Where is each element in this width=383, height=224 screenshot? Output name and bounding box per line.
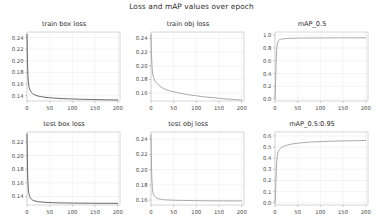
- svg-text:0.3: 0.3: [263, 166, 271, 172]
- svg-text:100: 100: [191, 105, 202, 111]
- plot-area: 0.00.20.40.60.81.0050100150200: [252, 29, 372, 114]
- svg-text:50: 50: [46, 105, 53, 111]
- svg-text:100: 100: [315, 209, 326, 215]
- svg-text:0.22: 0.22: [136, 49, 148, 55]
- figure-canvas: Loss and mAP values over epoch train box…: [0, 0, 383, 224]
- subplot-train-obj-loss: train obj loss0.160.180.200.220.24050100…: [128, 20, 248, 114]
- svg-text:0.2: 0.2: [263, 83, 271, 89]
- svg-text:0.14: 0.14: [12, 193, 24, 199]
- svg-text:0.20: 0.20: [136, 167, 148, 173]
- svg-text:100: 100: [67, 105, 78, 111]
- svg-text:150: 150: [214, 209, 225, 215]
- plot-area: 0.160.180.200.220.24050100150200: [128, 29, 248, 114]
- svg-text:1.0: 1.0: [263, 32, 272, 38]
- subplot-title: train obj loss: [128, 20, 248, 28]
- svg-text:200: 200: [237, 209, 248, 215]
- svg-text:0.24: 0.24: [12, 35, 24, 41]
- svg-text:150: 150: [338, 105, 349, 111]
- svg-text:200: 200: [113, 209, 124, 215]
- svg-text:200: 200: [361, 105, 372, 111]
- svg-text:0: 0: [149, 105, 153, 111]
- subplot-title: train box loss: [4, 20, 124, 28]
- svg-text:0.22: 0.22: [12, 139, 24, 145]
- plot-area: 0.160.180.200.220.24050100150200: [128, 129, 248, 218]
- svg-text:50: 50: [294, 209, 301, 215]
- svg-text:0.24: 0.24: [136, 35, 148, 41]
- svg-text:0.6: 0.6: [263, 58, 272, 64]
- svg-text:0.20: 0.20: [12, 153, 24, 159]
- svg-text:0.16: 0.16: [12, 180, 24, 186]
- svg-text:0.2: 0.2: [263, 177, 271, 183]
- svg-text:0.6: 0.6: [263, 133, 272, 139]
- svg-text:0: 0: [149, 209, 153, 215]
- svg-text:100: 100: [191, 209, 202, 215]
- subplot-map-05: mAP_0.50.00.20.40.60.81.0050100150200: [252, 20, 372, 114]
- svg-text:0.0: 0.0: [263, 96, 272, 102]
- svg-text:150: 150: [90, 105, 101, 111]
- svg-text:50: 50: [170, 105, 177, 111]
- subplot-title: test obj loss: [128, 120, 248, 128]
- svg-text:0.18: 0.18: [136, 76, 148, 82]
- svg-text:0.4: 0.4: [263, 71, 272, 77]
- svg-text:0.22: 0.22: [12, 46, 24, 52]
- subplot-test-box-loss: test box loss0.140.160.180.200.220501001…: [4, 120, 124, 218]
- svg-text:50: 50: [170, 209, 177, 215]
- svg-text:0.16: 0.16: [136, 197, 148, 203]
- svg-text:0.16: 0.16: [12, 81, 24, 87]
- svg-text:200: 200: [113, 105, 124, 111]
- plot-area: 0.00.10.20.30.40.50.6050100150200: [252, 129, 372, 218]
- svg-text:150: 150: [214, 105, 225, 111]
- svg-text:200: 200: [237, 105, 248, 111]
- subplot-title: mAP_0.5:0.95: [252, 120, 372, 128]
- svg-text:0.0: 0.0: [263, 200, 272, 206]
- svg-text:0.24: 0.24: [136, 136, 148, 142]
- svg-text:150: 150: [338, 209, 349, 215]
- svg-text:0.8: 0.8: [263, 45, 272, 51]
- svg-text:0.5: 0.5: [263, 144, 271, 150]
- svg-text:50: 50: [46, 209, 53, 215]
- svg-text:0.4: 0.4: [263, 155, 272, 161]
- figure-title: Loss and mAP values over epoch: [0, 2, 383, 11]
- svg-text:200: 200: [361, 209, 372, 215]
- svg-text:0: 0: [25, 105, 29, 111]
- subplot-test-obj-loss: test obj loss0.160.180.200.220.240501001…: [128, 120, 248, 218]
- svg-text:0.16: 0.16: [136, 90, 148, 96]
- svg-text:0: 0: [273, 105, 277, 111]
- svg-text:0.14: 0.14: [12, 93, 24, 99]
- subplot-train-box-loss: train box loss0.140.160.180.200.220.2405…: [4, 20, 124, 114]
- svg-text:100: 100: [67, 209, 78, 215]
- svg-text:0.22: 0.22: [136, 151, 148, 157]
- svg-text:0: 0: [273, 209, 277, 215]
- svg-text:0: 0: [25, 209, 29, 215]
- subplot-title: test box loss: [4, 120, 124, 128]
- svg-text:0.1: 0.1: [263, 189, 271, 195]
- svg-text:0.18: 0.18: [136, 182, 148, 188]
- svg-text:100: 100: [315, 105, 326, 111]
- svg-text:150: 150: [90, 209, 101, 215]
- svg-text:0.20: 0.20: [12, 58, 24, 64]
- plot-area: 0.140.160.180.200.220.24050100150200: [4, 29, 124, 114]
- svg-text:0.20: 0.20: [136, 63, 148, 69]
- svg-text:0.18: 0.18: [12, 166, 24, 172]
- svg-text:0.18: 0.18: [12, 69, 24, 75]
- subplot-map-05-095: mAP_0.5:0.950.00.10.20.30.40.50.60501001…: [252, 120, 372, 218]
- svg-text:50: 50: [294, 105, 301, 111]
- plot-area: 0.140.160.180.200.22050100150200: [4, 129, 124, 218]
- subplot-title: mAP_0.5: [252, 20, 372, 28]
